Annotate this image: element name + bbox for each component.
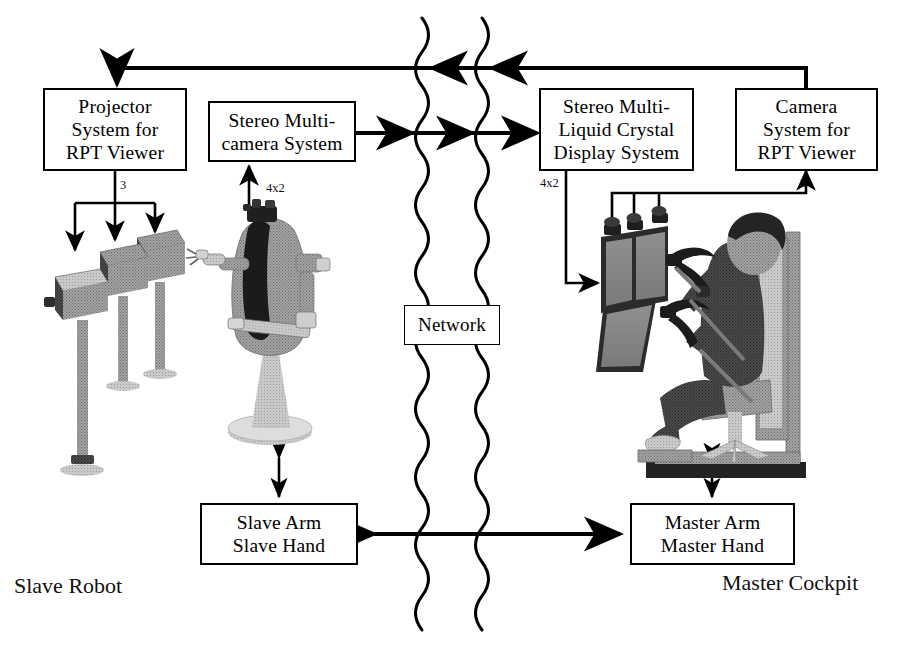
box-projector-system[interactable]: Projector System for RPT Viewer [43, 88, 187, 171]
label-master-cockpit: Master Cockpit [722, 570, 858, 596]
box-camera-system[interactable]: Camera System for RPT Viewer [735, 88, 878, 171]
box-slave-arm-hand[interactable]: Slave Arm Slave Hand [200, 503, 358, 565]
edge-label-master-camera-channels: 3 [800, 176, 806, 191]
label-slave-robot: Slave Robot [14, 573, 122, 599]
box-stereo-multi-lcd-system[interactable]: Stereo Multi- Liquid Crystal Display Sys… [539, 88, 694, 171]
master-camera-bus [612, 171, 806, 223]
edge-label-display-channels: 4x2 [540, 176, 559, 191]
slave-robot-illustration [186, 199, 330, 445]
box-master-arm-hand[interactable]: Master Arm Master Hand [630, 503, 795, 565]
edge-label-projector-channels: 3 [120, 178, 126, 193]
multi-lcd-display-array-illustration [596, 206, 668, 372]
box-stereo-multicamera-system[interactable]: Stereo Multi- camera System [208, 101, 356, 162]
rpt-projector-array-illustration [44, 230, 185, 476]
edge-label-slave-camera-channels: 4x2 [266, 181, 285, 196]
box-network[interactable]: Network [404, 305, 500, 345]
diagram-canvas: Projector System for RPT Viewer Stereo M… [0, 0, 913, 651]
connection-camera-to-projector [117, 68, 806, 88]
display-downlink [566, 171, 598, 283]
